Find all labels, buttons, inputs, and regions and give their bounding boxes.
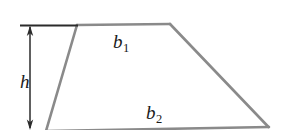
trapezoid-diagram-canvas bbox=[0, 0, 281, 130]
bottom-base-label-base: b bbox=[146, 102, 156, 123]
top-base-label: b1 bbox=[113, 32, 129, 55]
bottom-base-edge bbox=[46, 127, 269, 130]
bottom-base-label: b2 bbox=[146, 103, 162, 126]
top-base-label-base: b bbox=[113, 31, 123, 52]
left-leg-edge bbox=[46, 25, 77, 130]
top-base-edge bbox=[77, 24, 170, 25]
height-label: h bbox=[20, 72, 30, 91]
trapezoid-figure: h b1 b2 bbox=[0, 0, 281, 130]
right-leg-edge bbox=[170, 24, 269, 127]
top-base-label-subscript: 1 bbox=[123, 41, 129, 55]
bottom-base-label-subscript: 2 bbox=[156, 112, 162, 126]
